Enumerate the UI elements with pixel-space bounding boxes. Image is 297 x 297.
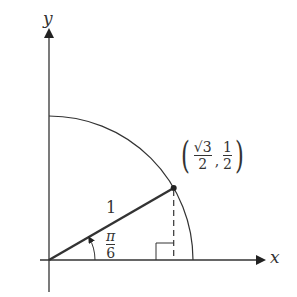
point-y-numerator: 1 [223,140,232,154]
x-axis-label: x [270,247,280,267]
point-y-denominator: 2 [223,157,232,171]
y-axis-label: y [43,8,53,28]
point-x-numerator: √3 [194,140,212,154]
right-angle-marker [156,243,174,260]
angle-denominator: 6 [106,246,115,260]
angle-label: π 6 [106,229,115,260]
point-label: ( √3 2 , 1 2 ) [178,136,247,174]
unit-circle-diagram [0,0,297,297]
angle-arc [89,237,95,260]
point-paren-open: ( [181,136,190,174]
point-x-denominator: 2 [198,157,207,171]
radius-label: 1 [106,198,116,217]
point-paren-close: ) [235,136,244,174]
angle-numerator: π [106,229,115,243]
point-separator: , [215,153,219,169]
